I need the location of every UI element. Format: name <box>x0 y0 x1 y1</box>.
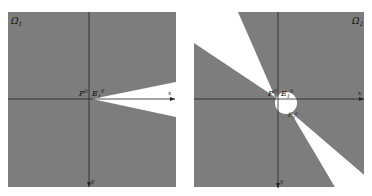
figure-canvas: Ω1 P0 E10 x y Ω2 P0 E10 E20 x <box>0 0 372 196</box>
panel-left: Ω1 P0 E10 x y <box>8 12 176 187</box>
y-axis-label-left: y <box>90 177 95 185</box>
y-axis-label-right: y <box>279 177 284 185</box>
x-axis-label-left: x <box>168 89 172 96</box>
x-axis-arrow-left <box>170 97 175 101</box>
panel-right: Ω2 P0 E10 E20 x y <box>194 12 364 188</box>
domain-omega1-fill <box>8 12 176 187</box>
